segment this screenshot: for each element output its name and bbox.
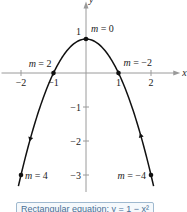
x-axis-label: x [181, 67, 187, 78]
x-tick-label: 2 [149, 77, 154, 88]
y-tick-label: −2 [70, 136, 81, 147]
slope-label: m = −4 [117, 170, 146, 181]
curve-point [19, 173, 24, 178]
slope-label: m = −2 [124, 57, 153, 68]
x-axis-arrow-icon [173, 71, 180, 76]
slope-label: m = 2 [29, 58, 52, 69]
y-tick-label: −3 [70, 170, 81, 181]
x-tick-label: 1 [116, 77, 121, 88]
y-axis-label: y [88, 0, 94, 5]
curve-point [51, 71, 56, 76]
y-axis-arrow-icon [84, 2, 89, 9]
curve-point [84, 37, 89, 42]
curve-point [116, 71, 121, 76]
rectangular-equation-caption: Rectangular equation: y = 1 − x² [16, 202, 154, 212]
slope-label: m = 4 [25, 170, 48, 181]
slope-label: m = 0 [91, 23, 114, 34]
curve-point [149, 173, 154, 178]
x-tick-label: −2 [16, 77, 27, 88]
parametric-plot: xy−2−1121−1−2−3 m = 0m = 2m = −2m = 4m =… [0, 0, 187, 212]
y-tick-label: −1 [70, 102, 81, 113]
y-tick-label: 1 [76, 26, 81, 37]
